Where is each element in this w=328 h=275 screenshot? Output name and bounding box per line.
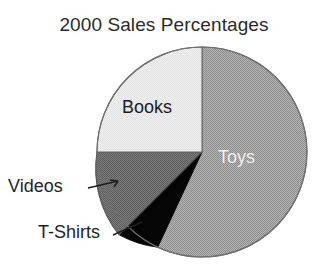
pie-label-tshirts: T-Shirts: [38, 222, 100, 243]
pie-label-videos: Videos: [8, 176, 63, 197]
pie-chart-figure: 2000 Sales Percentages: [0, 0, 328, 275]
pie-slice-books[interactable]: [97, 47, 202, 152]
